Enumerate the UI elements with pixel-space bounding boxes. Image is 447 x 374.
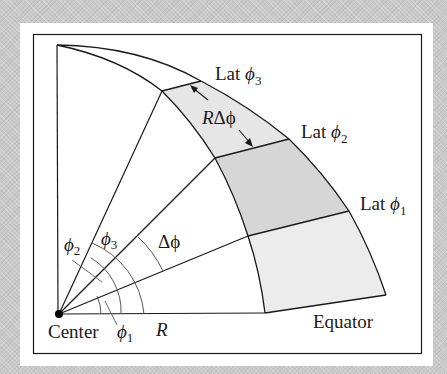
lat1-label: Lat ϕ1 — [360, 193, 406, 218]
phi1-leader — [105, 301, 117, 325]
radial-line-phi2 — [59, 158, 215, 314]
radial-line-phi3 — [59, 91, 162, 314]
equator-label: Equator — [313, 311, 374, 332]
center-label: Center — [48, 321, 99, 342]
phi2-label: ϕ2 — [64, 234, 80, 258]
delta-phi-label: Δϕ — [158, 231, 180, 252]
lat2-label: Lat ϕ2 — [301, 121, 347, 146]
center-dot — [55, 310, 63, 318]
radius-label: R — [155, 319, 168, 340]
phi3-label: ϕ3 — [101, 228, 117, 252]
radius-line — [59, 313, 265, 314]
polar-axis-line — [57, 45, 58, 314]
phi2-leader — [72, 260, 102, 282]
phi1-label: ϕ1 — [117, 321, 133, 345]
lat3-label: Lat ϕ3 — [215, 63, 261, 88]
latitude-sector-diagram: Lat ϕ3 RΔϕ Lat ϕ2 Lat ϕ1 Δϕ ϕ3 ϕ2 Center… — [0, 0, 447, 374]
arc-length-label: RΔϕ — [201, 107, 236, 128]
radial-line-phi1 — [59, 236, 248, 314]
